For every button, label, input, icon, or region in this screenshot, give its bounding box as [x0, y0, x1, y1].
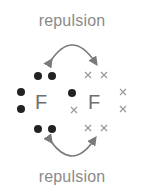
repulsion-label-bottom: repulsion [0, 168, 144, 186]
fluorine-atom-left: F [35, 91, 47, 114]
fluorine-atom-right: F [88, 91, 100, 114]
repulsion-arrow-bottom [50, 140, 94, 156]
repulsion-arrow-top [50, 45, 95, 62]
lewis-diagram [0, 0, 144, 195]
